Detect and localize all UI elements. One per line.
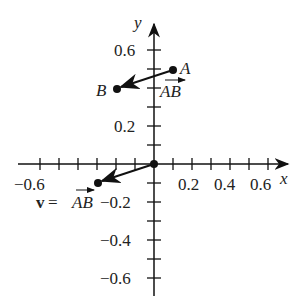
x-tick-label: −0.6 bbox=[14, 175, 45, 194]
vector-diagram: y x −0.6 0.2 0.4 0.6 0.6 0.2 −0.2 −0.4 −… bbox=[0, 0, 302, 306]
point-b bbox=[113, 85, 121, 93]
y-tick-label: −0.4 bbox=[100, 231, 131, 250]
x-tick-label: 0.2 bbox=[178, 175, 199, 194]
point-a-label: A bbox=[179, 59, 191, 78]
vector-v-equals: = bbox=[48, 193, 58, 212]
y-tick-label: −0.6 bbox=[100, 269, 131, 288]
y-tick-label: −0.2 bbox=[100, 193, 131, 212]
vector-ab-label: AB bbox=[159, 82, 181, 101]
y-tick-label: 0.6 bbox=[114, 41, 135, 60]
point-v-end bbox=[94, 179, 102, 187]
point-b-label: B bbox=[96, 81, 107, 100]
vector-v-label: AB bbox=[71, 193, 93, 212]
y-axis-label: y bbox=[132, 13, 142, 32]
vector-v-name: v bbox=[36, 193, 45, 212]
x-axis-label: x bbox=[279, 169, 288, 188]
y-tick-label: 0.2 bbox=[114, 117, 135, 136]
vector-v bbox=[102, 164, 154, 181]
origin-point bbox=[150, 160, 158, 168]
x-tick-label: 0.6 bbox=[250, 175, 271, 194]
x-tick-label: 0.4 bbox=[214, 175, 236, 194]
point-a bbox=[169, 66, 177, 74]
